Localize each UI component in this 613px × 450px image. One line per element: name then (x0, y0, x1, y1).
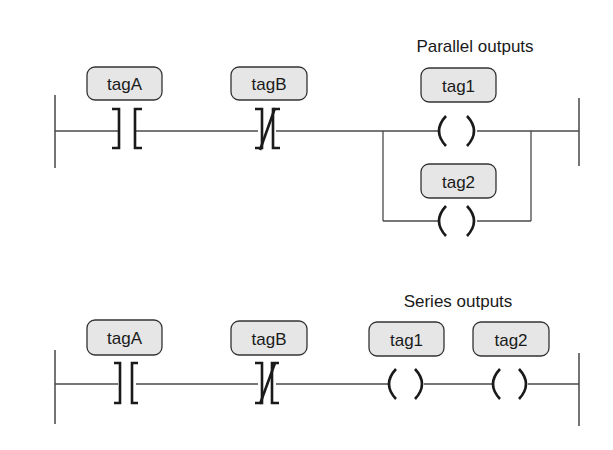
svg-text:tagA: tagA (107, 329, 143, 348)
tag-label-tag2[interactable]: tag2 (473, 322, 549, 356)
ladder-diagram: Parallel outputs tagA tagB (0, 0, 613, 450)
output-coil-icon[interactable] (439, 116, 474, 146)
output-coil-icon[interactable] (439, 206, 474, 236)
svg-text:tagB: tagB (252, 330, 287, 349)
tag-label-tagB[interactable]: tagB (231, 67, 307, 100)
rung2-title: Series outputs (404, 292, 513, 311)
normally-open-contact-icon[interactable] (114, 363, 138, 403)
svg-text:tag1: tag1 (390, 331, 423, 350)
tag-label-tag1[interactable]: tag1 (421, 68, 496, 102)
rung-parallel-outputs: Parallel outputs tagA tagB (55, 37, 579, 236)
tag-label-tagB[interactable]: tagB (231, 321, 307, 355)
svg-text:tag1: tag1 (442, 77, 475, 96)
rung-series-outputs: Series outputs tagA tagB t (55, 292, 579, 426)
normally-closed-contact-icon[interactable] (255, 363, 279, 404)
tag-label-tagA[interactable]: tagA (87, 67, 162, 100)
svg-text:tag2: tag2 (494, 331, 527, 350)
svg-text:tag2: tag2 (442, 173, 475, 192)
normally-closed-contact-icon[interactable] (255, 108, 280, 150)
normally-open-contact-icon[interactable] (112, 109, 142, 148)
svg-text:tagB: tagB (252, 75, 287, 94)
output-coil-icon[interactable] (493, 369, 526, 399)
tag-label-tagA[interactable]: tagA (87, 320, 162, 355)
output-coil-icon[interactable] (389, 369, 422, 399)
tag-label-tag1[interactable]: tag1 (369, 322, 444, 356)
tag-label-tag2[interactable]: tag2 (421, 164, 496, 198)
svg-text:tagA: tagA (107, 75, 143, 94)
rung1-title: Parallel outputs (416, 37, 533, 56)
